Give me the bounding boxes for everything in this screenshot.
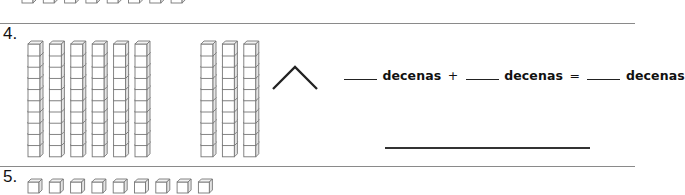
equals-sign: = (569, 68, 580, 83)
decenas-equation: decenas + decenas = decenas (343, 66, 685, 83)
decenas-label-1: decenas (382, 68, 441, 83)
answer-blank-1[interactable] (344, 66, 377, 80)
decenas-label-3: decenas (626, 68, 685, 83)
answer-blank-2[interactable] (466, 66, 499, 80)
decenas-label-2: decenas (504, 68, 563, 83)
answer-blank-3[interactable] (587, 66, 620, 80)
answer-line[interactable] (385, 147, 590, 149)
plus-sign: + (448, 68, 459, 83)
